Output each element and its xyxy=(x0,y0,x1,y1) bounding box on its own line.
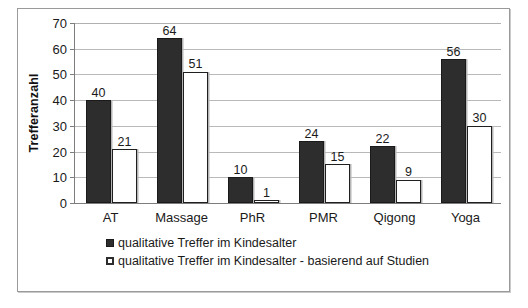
y-axis-tick-label: 30 xyxy=(53,119,67,132)
x-axis-category-label: Yoga xyxy=(430,210,501,225)
bar-value-label: 21 xyxy=(118,136,132,149)
bar: 56 xyxy=(441,59,466,203)
bar-value-label: 9 xyxy=(405,166,412,179)
bar: 24 xyxy=(299,141,324,203)
legend-label: qualitative Treffer im Kindesalter - bas… xyxy=(118,255,429,268)
x-axis-category-label: PhR xyxy=(217,210,288,225)
bar-group: 5630Yoga xyxy=(430,23,501,203)
bar: 64 xyxy=(157,38,182,203)
legend-label: qualitative Treffer im Kindesalter xyxy=(118,237,296,250)
bar: 1 xyxy=(254,200,279,203)
legend-swatch-icon xyxy=(106,257,114,265)
y-axis-tick-label: 40 xyxy=(53,94,67,107)
bar: 22 xyxy=(370,146,395,203)
y-axis-tick xyxy=(70,203,75,204)
y-axis-tick-label: 10 xyxy=(53,171,67,184)
bar-group: 6451Massage xyxy=(146,23,217,203)
legend-item: qualitative Treffer im Kindesalter xyxy=(106,237,429,250)
bar: 30 xyxy=(467,126,492,203)
bar-group: 229Qigong xyxy=(359,23,430,203)
bar-value-label: 56 xyxy=(447,46,461,59)
bar: 9 xyxy=(396,180,421,203)
y-axis-title: Trefferanzahl xyxy=(24,23,44,203)
bar: 10 xyxy=(228,177,253,203)
x-axis-line xyxy=(74,203,501,204)
x-axis-category-label: PMR xyxy=(288,210,359,225)
y-axis-tick-label: 50 xyxy=(53,68,67,81)
y-axis-tick-label: 60 xyxy=(53,42,67,55)
x-axis-category-label: AT xyxy=(75,210,146,225)
bar-group: 101PhR xyxy=(217,23,288,203)
bar-value-label: 10 xyxy=(234,164,248,177)
chart-legend: qualitative Treffer im Kindesalterqualit… xyxy=(106,237,429,267)
legend-swatch-icon xyxy=(106,239,114,247)
legend-item: qualitative Treffer im Kindesalter - bas… xyxy=(106,255,429,268)
bar-value-label: 30 xyxy=(473,112,487,125)
bar-value-label: 64 xyxy=(163,25,177,38)
y-axis-tick-label: 20 xyxy=(53,145,67,158)
y-axis-tick-label: 0 xyxy=(60,197,67,210)
bar-value-label: 15 xyxy=(331,151,345,164)
bar-value-label: 22 xyxy=(376,133,390,146)
y-axis-tick-label: 70 xyxy=(53,17,67,30)
x-axis-category-label: Qigong xyxy=(359,210,430,225)
plot-area: 010203040506070 4021AT6451Massage101PhR2… xyxy=(75,23,501,203)
bar-value-label: 51 xyxy=(189,58,203,71)
bar: 21 xyxy=(112,149,137,203)
bar-value-label: 24 xyxy=(305,128,319,141)
bar-group: 4021AT xyxy=(75,23,146,203)
bar: 15 xyxy=(325,164,350,203)
bar: 40 xyxy=(86,100,111,203)
bar-group: 2415PMR xyxy=(288,23,359,203)
chart-figure: Trefferanzahl 010203040506070 4021AT6451… xyxy=(17,8,510,292)
bar: 51 xyxy=(183,72,208,203)
bar-value-label: 40 xyxy=(92,87,106,100)
x-axis-category-label: Massage xyxy=(146,210,217,225)
bar-value-label: 1 xyxy=(263,187,270,200)
y-axis-title-label: Trefferanzahl xyxy=(27,73,41,152)
